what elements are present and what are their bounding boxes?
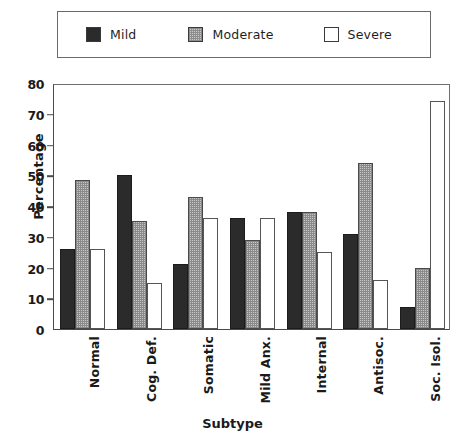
bar-severe-soc-isol [430, 101, 445, 329]
bar-mild-soc-isol [400, 307, 415, 329]
legend-item-moderate: Moderate [188, 27, 273, 42]
y-tick-label: 0 [36, 323, 44, 338]
bar-mild-normal [60, 249, 75, 329]
bar-moderate-somatic [188, 197, 203, 329]
bar-severe-cog-def [147, 283, 162, 329]
hatched-square-icon [188, 27, 203, 42]
bar-mild-mild-anx [230, 218, 245, 329]
x-tick-label: Internal [314, 336, 329, 393]
x-axis-title: Subtype [0, 416, 465, 431]
x-tick-label: Somatic [201, 336, 216, 394]
x-tick-label: Cog. Def. [144, 336, 159, 402]
bar-group [394, 85, 451, 329]
y-axis-title: Percentage [31, 117, 46, 237]
bar-group [224, 85, 281, 329]
bar-group [54, 85, 111, 329]
x-tick-label: Antisoc. [371, 336, 386, 395]
empty-square-icon [324, 27, 339, 42]
legend: Mild Moderate Severe [57, 11, 431, 58]
x-tick-label: Soc. Isol. [428, 336, 443, 402]
bar-severe-normal [90, 249, 105, 329]
bar-moderate-antisoc [358, 163, 373, 329]
legend-label-mild: Mild [110, 27, 136, 42]
bar-group [111, 85, 168, 329]
legend-item-mild: Mild [86, 27, 136, 42]
bar-group [281, 85, 338, 329]
plot-area [53, 84, 450, 330]
bar-moderate-cog-def [132, 221, 147, 329]
x-tick-label: Mild Anx. [258, 336, 273, 404]
bar-severe-mild-anx [260, 218, 275, 329]
bar-moderate-internal [302, 212, 317, 329]
legend-item-severe: Severe [324, 27, 392, 42]
bar-moderate-mild-anx [245, 240, 260, 329]
bar-moderate-soc-isol [415, 268, 430, 330]
legend-label-severe: Severe [348, 27, 392, 42]
bar-severe-internal [317, 252, 332, 329]
y-tick-label: 20 [27, 261, 44, 276]
bar-group [167, 85, 224, 329]
bar-severe-antisoc [373, 280, 388, 329]
x-tick-label: Normal [87, 336, 102, 388]
bar-moderate-normal [75, 180, 90, 329]
legend-label-moderate: Moderate [212, 27, 273, 42]
y-tick-label: 80 [27, 77, 44, 92]
y-tick-label: 10 [27, 292, 44, 307]
filled-square-dark-icon [86, 27, 101, 42]
bar-group [338, 85, 395, 329]
bar-mild-cog-def [117, 175, 132, 329]
bar-mild-antisoc [343, 234, 358, 329]
bar-severe-somatic [203, 218, 218, 329]
bar-mild-internal [287, 212, 302, 329]
bar-mild-somatic [173, 264, 188, 329]
